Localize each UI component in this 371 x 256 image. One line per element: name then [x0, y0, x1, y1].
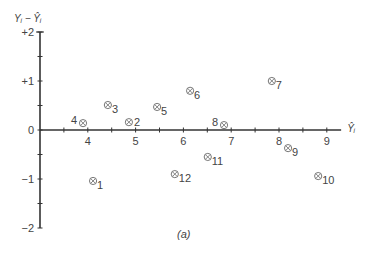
data-points: 123456789101112	[71, 77, 335, 191]
y-tick-label: −1	[21, 173, 34, 185]
data-point: 12	[171, 171, 191, 185]
point-label: 8	[212, 116, 218, 128]
residual-plot: +2+10−1−2456789Yᵢ − ŶᵢŶᵢ 123456789101112	[0, 0, 371, 256]
data-point: 5	[154, 103, 168, 117]
point-label: 11	[212, 155, 223, 167]
data-point: 10	[315, 172, 335, 186]
data-point: 3	[104, 101, 118, 115]
y-tick-label: +1	[21, 75, 34, 87]
x-axis-label: Ŷᵢ	[347, 122, 356, 134]
x-tick-label: 7	[228, 135, 234, 147]
data-point: 4	[71, 114, 87, 127]
point-label: 12	[179, 172, 191, 184]
data-point: 2	[125, 116, 140, 128]
y-axis-label: Yᵢ − Ŷᵢ	[14, 12, 42, 24]
point-label: 10	[322, 174, 334, 186]
x-tick-label: 8	[276, 135, 282, 147]
y-tick-label: 0	[28, 124, 34, 136]
point-label: 3	[112, 103, 118, 115]
x-tick-label: 5	[133, 135, 139, 147]
x-tick-label: 4	[85, 135, 91, 147]
point-label: 4	[71, 114, 77, 126]
data-point: 7	[268, 77, 282, 91]
x-tick-label: 9	[324, 135, 330, 147]
point-label: 1	[97, 179, 103, 191]
axes: +2+10−1−2456789Yᵢ − ŶᵢŶᵢ	[14, 12, 356, 234]
data-point: 6	[186, 87, 200, 101]
point-label: 9	[292, 146, 298, 158]
data-point: 11	[204, 153, 223, 167]
point-label: 2	[134, 116, 140, 128]
figure-caption: (a)	[177, 228, 190, 240]
point-label: 7	[276, 79, 282, 91]
data-point: 9	[284, 145, 298, 159]
x-tick-label: 6	[180, 135, 186, 147]
data-point: 8	[212, 116, 228, 129]
y-tick-label: +2	[21, 26, 34, 38]
point-label: 5	[161, 105, 167, 117]
y-tick-label: −2	[21, 222, 34, 234]
point-label: 6	[194, 89, 200, 101]
data-point: 1	[89, 177, 103, 191]
